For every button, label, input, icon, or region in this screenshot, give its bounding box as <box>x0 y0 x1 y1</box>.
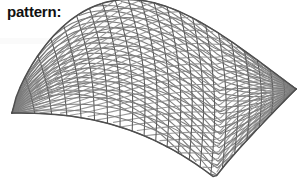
lattice-lines <box>12 0 296 176</box>
figure-root: pattern: <box>0 0 307 192</box>
gridshell-surface-diagram <box>0 0 307 192</box>
caption-label: pattern: <box>7 3 61 21</box>
